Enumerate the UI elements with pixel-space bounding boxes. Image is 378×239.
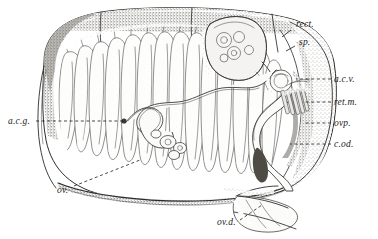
label-ov: ov. <box>57 185 68 195</box>
gland-acinus <box>169 151 180 160</box>
label-rect: rect. <box>296 19 314 29</box>
label-ovp: ovp. <box>334 118 351 128</box>
accessory-vesicle <box>270 70 292 92</box>
label-acv: a.c.v. <box>334 74 355 84</box>
gland-acinus <box>151 130 161 138</box>
vesicle <box>217 33 232 48</box>
vesicle <box>234 32 245 43</box>
label-retm: ret.m. <box>334 97 357 107</box>
vesicle <box>245 46 254 55</box>
label-cod: c.od. <box>334 139 353 149</box>
label-sp: sp. <box>299 37 310 47</box>
anatomical-figure: rect. sp. a.c.v. ret.m. ovp. c.od. a.c.g… <box>0 0 378 239</box>
figure-drawing: rect. sp. a.c.v. ret.m. ovp. c.od. a.c.g… <box>0 0 378 239</box>
vesicle <box>220 54 228 62</box>
label-acg: a.c.g. <box>8 116 30 126</box>
vesicle <box>228 47 241 60</box>
label-ovd: ov.d. <box>217 217 236 227</box>
